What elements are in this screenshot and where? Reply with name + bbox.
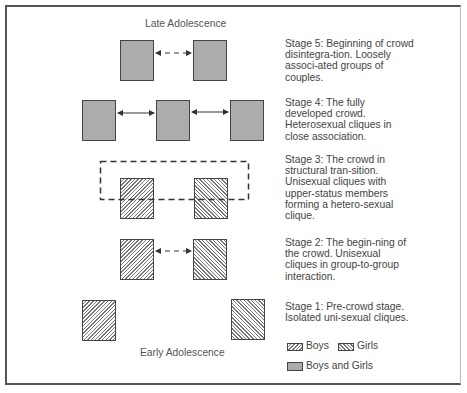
late-adolescence-label: Late Adolescence xyxy=(145,18,226,29)
stage1-girls-clique xyxy=(231,299,265,340)
stage1-description: Stage 1: Pre-crowd stage. Isolated uni-s… xyxy=(285,301,415,323)
stage4-mixed-clique-2 xyxy=(156,100,190,141)
legend-girls-swatch xyxy=(338,343,354,351)
stage2-girls-clique xyxy=(193,239,227,280)
legend-boys-label: Boys xyxy=(306,340,329,351)
stage4-mixed-clique-3 xyxy=(230,100,264,141)
stage1-boys-clique xyxy=(82,300,116,341)
stage5-mixed-clique-right xyxy=(193,40,227,81)
legend-mixed-label: Boys and Girls xyxy=(306,360,373,371)
stage2-boys-clique xyxy=(120,239,154,280)
stage3-girls-clique xyxy=(194,178,228,219)
legend-girls-label: Girls xyxy=(357,340,378,351)
legend-mixed-swatch xyxy=(287,362,303,371)
stage5-mixed-clique-left xyxy=(120,40,154,81)
stage3-boys-clique xyxy=(120,178,154,219)
stage3-description: Stage 3: The crowd in structural tran-si… xyxy=(285,154,415,221)
stage5-description: Stage 5: Beginning of crowd disintegra-t… xyxy=(285,38,415,83)
stage2-description: Stage 2: The begin-ning of the crowd. Un… xyxy=(285,237,415,282)
early-adolescence-label: Early Adolescence xyxy=(140,347,225,358)
stage4-description: Stage 4: The fully developed crowd. Hete… xyxy=(285,97,415,142)
legend-boys-swatch xyxy=(287,343,303,351)
stage4-mixed-clique-1 xyxy=(82,100,116,141)
